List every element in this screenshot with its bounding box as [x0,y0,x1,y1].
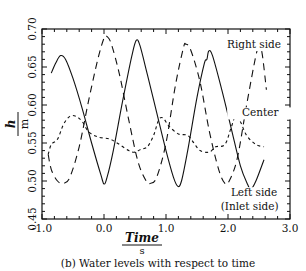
water-level-chart: -1.00.01.02.03.0 0.450.500.550.600.650.7… [0,0,306,271]
x-tick-label: 0.0 [96,222,113,234]
series-annotations: Right sideCenterLeft side(Inlet side) [217,38,294,213]
x-tick-label: 3.0 [282,222,299,234]
y-tick-label: 0.70 [26,17,38,40]
y-axis-label-quantity: h [4,120,18,129]
series-annotation: (Inlet side) [221,200,279,212]
x-tick-label: 2.0 [220,222,237,234]
y-tick-label: 0.45 [26,207,38,230]
y-tick-label: 0.50 [26,169,38,192]
series-annotation: Left side [231,186,277,198]
x-axis-label-unit: s [139,245,144,256]
series-annotation: Center [242,106,279,118]
series-annotation: Right side [227,38,281,50]
y-tick-label: 0.55 [26,131,38,154]
x-tick-label: 1.0 [158,222,175,234]
y-tick-label: 0.65 [26,55,38,78]
x-axis-label-quantity: Time [125,231,159,245]
chart-caption: (b) Water levels with respect to time [61,257,255,269]
series-center [48,116,264,155]
y-tick-label: 0.60 [26,93,38,116]
x-axis-label: Time s [122,231,162,256]
y-axis-label-unit: m [18,118,31,129]
